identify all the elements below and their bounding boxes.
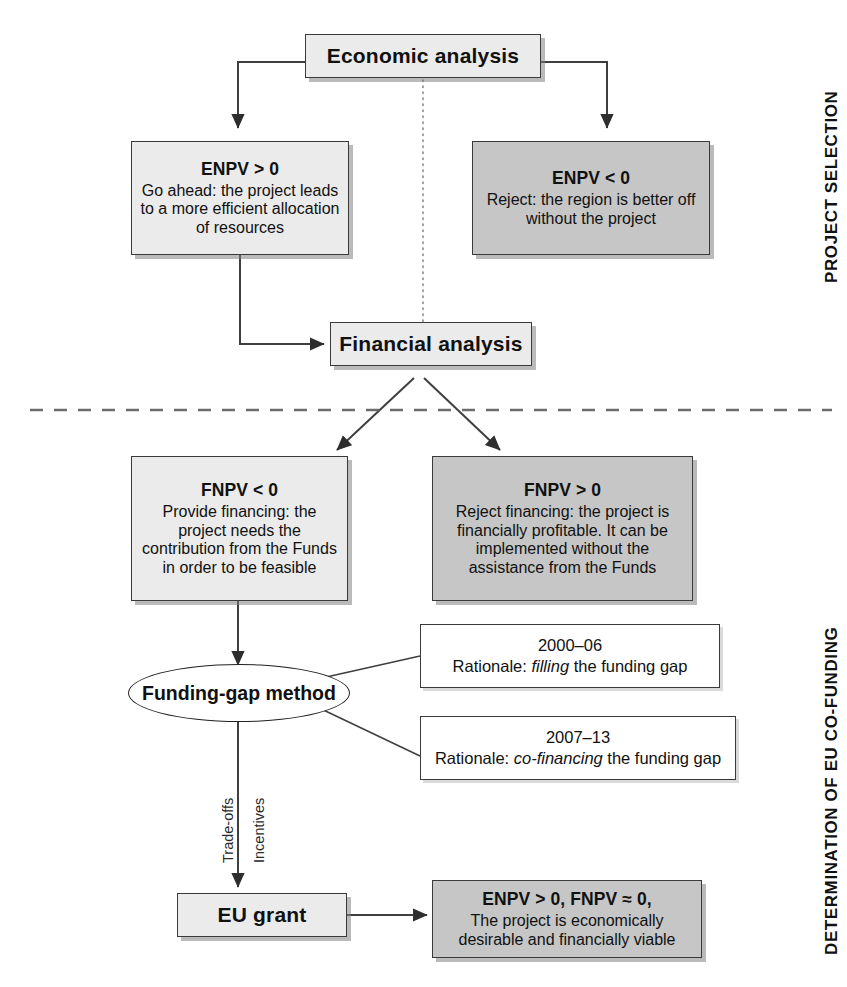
side-label-project-selection: PROJECT SELECTION <box>822 90 842 283</box>
side-label-project-selection-text: PROJECT SELECTION <box>822 90 841 283</box>
node-eu-grant[interactable]: EU grant <box>177 893 347 937</box>
side-label-determination-eu-cofunding-text: DETERMINATION OF EU CO-FUNDING <box>822 627 841 955</box>
edge-label-incentives-text: Incentives <box>251 798 267 863</box>
edge-enpv-positive-to-financial <box>240 255 324 344</box>
rationale-2007-13-prefix: Rationale: <box>435 749 514 767</box>
node-enpv-negative-header: ENPV < 0 <box>552 168 630 188</box>
node-outcome-body: The project is economically desirable an… <box>433 912 701 949</box>
edge-economic-to-enpv-negative <box>541 62 607 128</box>
node-fnpv-negative-body: Provide financing: the project needs the… <box>132 503 347 577</box>
node-fnpv-positive-body: Reject financing: the project is financi… <box>433 503 692 577</box>
node-fnpv-positive[interactable]: FNPV > 0 Reject financing: the project i… <box>432 456 693 601</box>
side-label-determination-eu-cofunding: DETERMINATION OF EU CO-FUNDING <box>822 627 842 955</box>
edge-economic-to-enpv-positive <box>238 62 305 128</box>
node-rationale-2007-13[interactable]: 2007–13 Rationale: co-financing the fund… <box>420 716 736 780</box>
rationale-2007-13-suffix: the funding gap <box>603 749 721 767</box>
node-financial-analysis-label: Financial analysis <box>339 332 522 356</box>
rationale-2000-06-suffix: the funding gap <box>569 657 687 675</box>
node-rationale-2000-06-text: Rationale: filling the funding gap <box>453 657 688 676</box>
node-funding-gap-method-label: Funding-gap method <box>142 682 336 705</box>
node-eu-grant-label: EU grant <box>217 903 306 927</box>
node-enpv-positive[interactable]: ENPV > 0 Go ahead: the project leads to … <box>131 141 349 255</box>
node-rationale-2007-13-text: Rationale: co-financing the funding gap <box>435 749 721 768</box>
edge-label-trade-offs-text: Trade-offs <box>220 798 236 863</box>
node-fnpv-negative-header: FNPV < 0 <box>201 480 278 500</box>
diagram-canvas: Economic analysis ENPV > 0 Go ahead: the… <box>0 0 847 987</box>
node-enpv-negative[interactable]: ENPV < 0 Reject: the region is better of… <box>472 141 710 255</box>
node-enpv-positive-body: Go ahead: the project leads to a more ef… <box>132 182 348 238</box>
rationale-2000-06-prefix: Rationale: <box>453 657 532 675</box>
node-funding-gap-method[interactable]: Funding-gap method <box>128 664 350 722</box>
node-rationale-2000-06[interactable]: 2000–06 Rationale: filling the funding g… <box>420 624 720 688</box>
node-enpv-negative-body: Reject: the region is better off without… <box>473 191 709 228</box>
node-outcome[interactable]: ENPV > 0, FNPV ≈ 0, The project is econo… <box>432 880 702 958</box>
edge-label-trade-offs: Trade-offs <box>220 798 236 863</box>
node-fnpv-positive-header: FNPV > 0 <box>524 480 601 500</box>
edge-financial-to-fnpv-negative <box>337 378 414 450</box>
node-financial-analysis[interactable]: Financial analysis <box>330 322 532 366</box>
rationale-2000-06-emphasis: filling <box>531 657 569 675</box>
connector-layer <box>0 0 847 987</box>
node-fnpv-negative[interactable]: FNPV < 0 Provide financing: the project … <box>131 456 348 601</box>
node-enpv-positive-header: ENPV > 0 <box>201 159 279 179</box>
edge-label-incentives: Incentives <box>251 798 267 863</box>
node-economic-analysis-label: Economic analysis <box>327 44 519 68</box>
node-rationale-2000-06-period: 2000–06 <box>538 636 602 655</box>
rationale-2007-13-emphasis: co-financing <box>514 749 603 767</box>
node-outcome-header: ENPV > 0, FNPV ≈ 0, <box>482 889 652 909</box>
node-rationale-2007-13-period: 2007–13 <box>546 728 610 747</box>
node-economic-analysis[interactable]: Economic analysis <box>305 34 541 78</box>
edge-funding-gap-to-rationale-2007 <box>315 706 420 756</box>
edge-financial-to-fnpv-positive <box>424 378 500 450</box>
